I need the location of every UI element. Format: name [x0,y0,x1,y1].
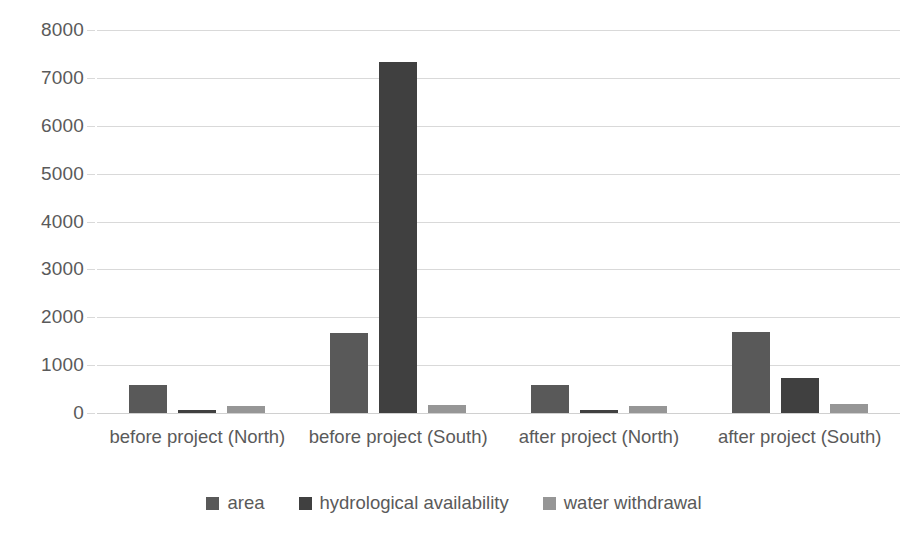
x-axis-category-labels: before project (North)before project (So… [97,420,900,482]
legend-label: area [227,492,264,514]
y-tick-mark [87,174,95,175]
legend-swatch-icon [543,497,556,510]
y-tick-label: 3000 [41,258,84,280]
bar [781,378,819,413]
y-tick-mark [87,126,95,127]
plot-area [97,0,900,420]
bar [830,404,868,413]
bar [732,332,770,413]
bar [580,410,618,413]
plot-wrapper: 800070006000500040003000200010000 [0,0,908,420]
bar-group [97,30,298,413]
bar-group [699,30,900,413]
legend-swatch-icon [299,497,312,510]
legend-item: water withdrawal [543,492,702,514]
bar [129,385,167,413]
bar [531,385,569,413]
y-tick-label: 0 [73,402,84,424]
legend-label: water withdrawal [564,492,702,514]
bar-chart: 800070006000500040003000200010000 before… [0,0,908,546]
y-tick-label: 2000 [41,306,84,328]
y-tick-label: 4000 [41,211,84,233]
bar [629,406,667,413]
y-tick-label: 6000 [41,115,84,137]
x-tick-label: after project (South) [699,424,900,450]
bar [428,405,466,413]
y-tick-mark [87,317,95,318]
y-tick-mark [87,269,95,270]
bar-group [298,30,499,413]
bar [379,62,417,413]
x-tick-label: after project (North) [499,424,700,450]
x-tick-label: before project (North) [97,424,298,450]
y-tick-mark [87,365,95,366]
x-tick-label: before project (South) [298,424,499,450]
bar-group [499,30,700,413]
legend-swatch-icon [206,497,219,510]
y-tick-mark [87,222,95,223]
chart-legend: areahydrological availabilitywater withd… [0,492,908,514]
legend-item: hydrological availability [299,492,509,514]
y-tick-mark [87,78,95,79]
y-tick-mark [87,413,95,414]
y-tick-label: 1000 [41,354,84,376]
legend-item: area [206,492,264,514]
y-tick-label: 7000 [41,67,84,89]
bar [227,406,265,413]
y-tick-label: 8000 [41,19,84,41]
bar [178,410,216,413]
y-tick-label: 5000 [41,163,84,185]
legend-label: hydrological availability [320,492,509,514]
bar [330,333,368,413]
y-axis: 800070006000500040003000200010000 [0,0,84,420]
y-tick-mark [87,30,95,31]
